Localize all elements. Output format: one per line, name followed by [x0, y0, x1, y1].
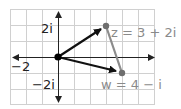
vector-z [58, 29, 101, 57]
point-w [119, 70, 125, 76]
point-w-label: w = 4 − i [101, 77, 162, 92]
tick-label-y-neg: −2i [32, 77, 55, 92]
complex-plane-diagram: 2i −2 −2i z = 3 + 2i w = 4 − i [0, 0, 181, 109]
tick-label-y-pos: 2i [41, 21, 53, 36]
point-z-label: z = 3 + 2i [111, 25, 176, 40]
vector-w [58, 57, 116, 71]
tick-label-x-neg: −2 [11, 59, 30, 74]
origin-dot [54, 53, 61, 60]
point-z [103, 23, 109, 29]
